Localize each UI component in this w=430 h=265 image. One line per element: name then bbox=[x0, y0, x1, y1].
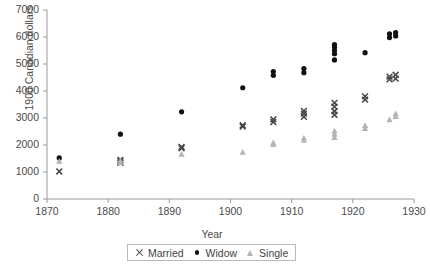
legend-item-label: Widow bbox=[206, 247, 238, 259]
marker-triangle bbox=[393, 111, 399, 117]
triangle-icon bbox=[246, 248, 255, 257]
marker-dot bbox=[179, 109, 184, 114]
legend-item-widow[interactable]: Widow bbox=[193, 247, 238, 259]
chart-legend: MarriedWidowSingle bbox=[127, 244, 296, 261]
series-widow bbox=[57, 30, 399, 160]
marker-triangle bbox=[331, 128, 337, 134]
marker-dot bbox=[240, 85, 245, 90]
marker-dot bbox=[271, 69, 276, 74]
x-icon bbox=[135, 248, 144, 257]
marker-triangle bbox=[178, 151, 184, 157]
marker-dot bbox=[393, 30, 398, 35]
legend-item-married[interactable]: Married bbox=[135, 247, 184, 259]
marker-dot bbox=[362, 50, 367, 55]
dot-icon bbox=[193, 248, 202, 257]
marker-triangle bbox=[386, 117, 392, 123]
marker-dot bbox=[118, 132, 123, 137]
marker-dot bbox=[387, 31, 392, 36]
marker-dot bbox=[332, 57, 337, 62]
legend-item-single[interactable]: Single bbox=[246, 247, 288, 259]
marker-dot bbox=[301, 66, 306, 71]
marker-dot bbox=[332, 42, 337, 47]
marker-triangle bbox=[301, 135, 307, 141]
series-married bbox=[56, 72, 398, 174]
marker-triangle bbox=[240, 149, 246, 155]
legend-item-label: Married bbox=[148, 247, 184, 259]
marker-triangle bbox=[270, 139, 276, 145]
legend-item-label: Single bbox=[259, 247, 288, 259]
marker-triangle bbox=[362, 122, 368, 128]
series-single bbox=[56, 111, 399, 166]
